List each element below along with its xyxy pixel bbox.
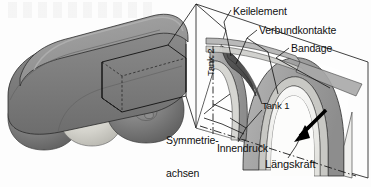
label-symmetrieachsen-line1: Symmetrie- [166, 135, 219, 146]
label-keilelement: Keilelement [233, 6, 287, 17]
label-innendruck: Innendruck [217, 143, 268, 154]
label-verbundkontakte: Verbundkontakte [259, 25, 336, 36]
label-laengskraft: Längskraft [265, 159, 315, 171]
label-bandage: Bandage [291, 43, 332, 54]
label-symmetrieachsen: Symmetrie- achsen [166, 113, 219, 187]
label-tank2: Tank 2 [206, 49, 216, 76]
label-symmetrieachsen-line2: achsen [166, 168, 219, 179]
figure-root: Keilelement Verbundkontakte Bandage Tank… [0, 0, 371, 187]
label-tank1: Tank 1 [262, 101, 289, 111]
